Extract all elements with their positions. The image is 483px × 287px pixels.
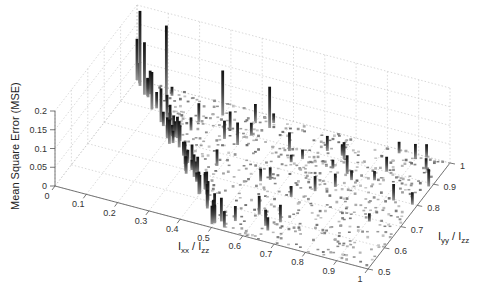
- data-bar: [313, 139, 316, 141]
- data-bar: [312, 239, 315, 241]
- data-bar: [341, 253, 344, 255]
- data-bar: [209, 117, 212, 119]
- data-bar: [304, 149, 307, 151]
- data-bar: [195, 144, 198, 146]
- data-bar: [281, 131, 284, 133]
- data-bar: [341, 212, 344, 214]
- data-bar: [252, 152, 255, 154]
- data-bar: [405, 150, 408, 153]
- data-bar: [322, 142, 325, 144]
- data-bar: [308, 149, 311, 151]
- data-bar: [251, 234, 254, 236]
- data-bar: [185, 122, 188, 124]
- data-bar: [143, 42, 146, 95]
- data-bar: [353, 242, 356, 244]
- data-bar: [346, 197, 349, 200]
- data-bar: [373, 256, 376, 258]
- data-bar: [186, 133, 189, 135]
- data-bar: [285, 165, 288, 167]
- data-bar: [379, 167, 382, 169]
- data-bar: [244, 121, 247, 123]
- data-bar: [362, 210, 365, 212]
- data-bar: [303, 125, 306, 127]
- data-bar: [374, 167, 377, 170]
- data-bar: [179, 105, 182, 107]
- data-bar: [366, 236, 369, 239]
- data-bar: [217, 144, 220, 146]
- data-bar: [227, 152, 230, 154]
- data-bar: [264, 141, 267, 143]
- data-bar: [398, 142, 401, 154]
- data-bar: [297, 128, 300, 130]
- data-bar: [183, 96, 186, 98]
- data-bar: [356, 166, 359, 168]
- data-bar: [326, 136, 329, 151]
- data-bar: [247, 117, 250, 119]
- data-bar: [220, 198, 223, 222]
- data-bar: [202, 123, 205, 125]
- data-bar: [374, 207, 377, 209]
- data-bar: [323, 183, 326, 185]
- tick-label: 0: [44, 191, 49, 201]
- data-bar: [234, 206, 237, 221]
- data-bar: [380, 155, 383, 158]
- data-bar: [359, 261, 362, 263]
- data-bar: [349, 138, 352, 140]
- data-bar: [253, 128, 256, 130]
- data-bar: [205, 117, 208, 119]
- data-bar: [337, 133, 340, 135]
- data-bar: [386, 148, 389, 150]
- data-bar: [340, 161, 343, 163]
- data-bar: [297, 180, 300, 183]
- data-bar: [437, 161, 440, 163]
- data-bar: [249, 164, 252, 166]
- data-bar: [253, 209, 256, 211]
- data-bar: [403, 163, 406, 165]
- data-bar: [207, 154, 210, 156]
- data-bar: [302, 167, 305, 169]
- data-bar: [414, 164, 417, 166]
- data-bar: [287, 244, 290, 246]
- data-bar: [368, 213, 371, 221]
- data-bar: [323, 232, 326, 234]
- data-bar: [374, 149, 377, 151]
- data-bar: [201, 120, 204, 122]
- data-bar: [197, 103, 200, 122]
- data-bar: [225, 112, 228, 114]
- data-bar: [349, 244, 352, 246]
- data-bar: [273, 221, 276, 223]
- data-bar: [387, 213, 390, 215]
- data-bar: [228, 165, 231, 167]
- data-bar: [321, 134, 324, 136]
- data-bar: [297, 202, 300, 204]
- data-bar: [191, 97, 194, 99]
- data-bar: [349, 226, 352, 228]
- data-bar: [343, 198, 346, 200]
- data-bar: [361, 230, 364, 232]
- data-bar: [213, 150, 216, 152]
- data-bar: [352, 246, 355, 248]
- data-bar: [319, 184, 322, 186]
- data-bar: [233, 176, 236, 178]
- tick-label: 0.15: [29, 125, 47, 135]
- data-bar: [332, 138, 335, 140]
- data-bar: [268, 87, 271, 128]
- data-bar: [365, 264, 368, 266]
- data-bar: [359, 185, 362, 187]
- data-bar: [266, 196, 269, 198]
- data-bar: [404, 184, 407, 186]
- data-bar: [162, 112, 165, 126]
- data-bar: [212, 113, 215, 115]
- data-bar: [250, 123, 253, 136]
- data-bar: [319, 172, 322, 174]
- data-bar: [172, 131, 175, 143]
- data-bar: [414, 158, 417, 160]
- data-bar: [259, 167, 262, 169]
- data-bar: [325, 165, 328, 167]
- data-bar: [359, 204, 362, 206]
- data-bar: [326, 204, 329, 206]
- data-bar: [344, 174, 347, 176]
- data-bar: [235, 200, 238, 202]
- tick-label: 0.8: [427, 203, 440, 213]
- data-bar: [379, 183, 382, 185]
